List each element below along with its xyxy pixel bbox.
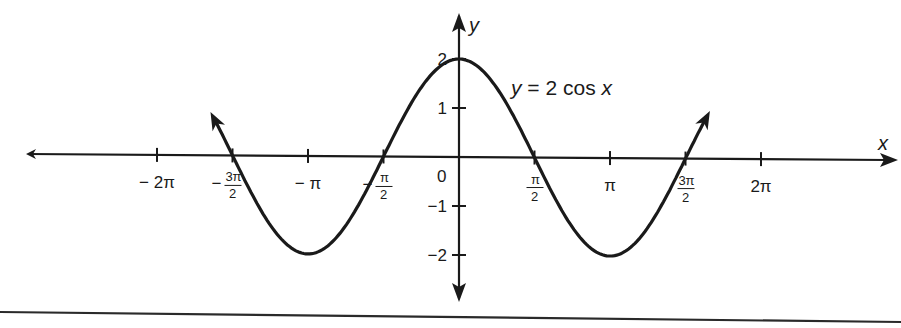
svg-text:2: 2 xyxy=(531,189,538,204)
svg-text:3π: 3π xyxy=(678,173,694,188)
x-tick-label: 2π xyxy=(750,177,771,196)
equation-middle: = 2 cos xyxy=(522,76,602,99)
x-axis-label: x xyxy=(877,132,889,154)
x-tick-label: − π xyxy=(295,174,321,193)
y-axis-label: y xyxy=(467,14,480,36)
y-tick-label: −2 xyxy=(428,246,447,265)
svg-text:−: − xyxy=(212,174,222,193)
y-tick-label: −1 xyxy=(428,197,447,216)
x-tick-fraction-label: 3π2 xyxy=(678,173,695,205)
origin-label: 0 xyxy=(437,167,446,186)
x-tick-label: π xyxy=(604,176,616,195)
cosine-graph: − 2π−3π2− π−π2π2π3π22π 21−1−2 y x 0 y = … xyxy=(0,0,901,328)
svg-text:π: π xyxy=(531,172,540,187)
svg-text:π: π xyxy=(380,170,389,185)
x-tick-fraction-label: −3π2 xyxy=(212,169,242,201)
svg-text:2: 2 xyxy=(682,190,689,205)
svg-text:2: 2 xyxy=(229,186,236,201)
equation-x: x xyxy=(600,76,613,99)
svg-text:2: 2 xyxy=(380,187,387,202)
equation-label: y = 2 cos x xyxy=(509,76,613,99)
x-tick-label: − 2π xyxy=(139,173,175,192)
bottom-rule xyxy=(0,312,901,322)
x-tick-fraction-label: π2 xyxy=(527,172,544,204)
y-tick-label: 1 xyxy=(438,99,447,118)
